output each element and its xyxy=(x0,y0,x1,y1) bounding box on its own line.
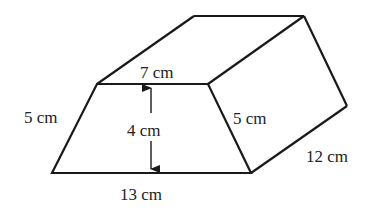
left-slant-label: 5 cm xyxy=(24,108,58,127)
back-right-slant-edge xyxy=(304,16,347,106)
trapezoidal-prism-diagram: 7 cm 5 cm 4 cm 5 cm 13 cm 12 cm xyxy=(0,0,381,210)
top-width-label: 7 cm xyxy=(140,63,174,82)
top-right-receding-edge xyxy=(208,16,304,84)
base-width-label: 13 cm xyxy=(120,185,162,204)
depth-label: 12 cm xyxy=(306,147,348,166)
right-slant-label: 5 cm xyxy=(233,109,267,128)
height-label: 4 cm xyxy=(127,121,161,140)
